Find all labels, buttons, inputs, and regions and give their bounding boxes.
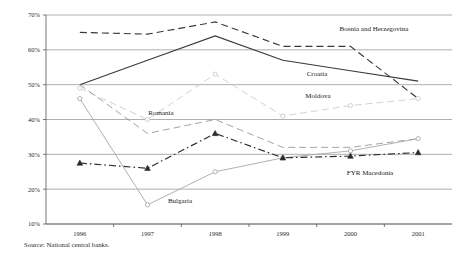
source-note: Source: National central banks.: [24, 241, 109, 248]
data-point-marker: [416, 97, 420, 101]
data-point-marker: [213, 170, 217, 174]
data-point-marker: [416, 137, 420, 141]
data-point-marker: [415, 150, 421, 155]
y-tick-label: 30%: [28, 151, 41, 158]
x-tick-label: 1997: [141, 230, 155, 237]
line-chart-canvas: 10%20%30%40%50%60%70% 199619971998199920…: [0, 0, 467, 262]
data-point-marker: [145, 203, 149, 207]
y-tick-label: 40%: [28, 116, 41, 123]
series-label-bulgaria: Bulgaria: [168, 197, 193, 205]
series-line-croatia: [80, 36, 418, 85]
chart-figure: 10%20%30%40%50%60%70% 199619971998199920…: [0, 0, 467, 262]
series-label-croatia: Croatia: [307, 70, 328, 78]
series-label-moldova: Moldova: [305, 92, 331, 100]
x-tick-label: 1996: [73, 230, 87, 237]
series-label-fyr-macedonia: FYR Macedonia: [347, 169, 394, 177]
y-tick-label: 70%: [28, 11, 41, 18]
data-point-marker: [212, 130, 218, 135]
series-line-moldova: [80, 74, 418, 119]
series-annotations-group: Bosnia and HerzegovinaCroatiaMoldovaRoma…: [148, 25, 409, 205]
data-markers-group: [77, 72, 421, 207]
y-tick-label: 60%: [28, 46, 41, 53]
y-tick-label: 50%: [28, 81, 41, 88]
x-tick-label: 2000: [344, 230, 357, 237]
data-point-marker: [78, 97, 82, 101]
series-label-romania: Romania: [148, 109, 174, 117]
y-axis-labels-group: 10%20%30%40%50%60%70%: [28, 11, 41, 227]
data-point-marker: [213, 72, 217, 76]
x-axis-labels-group: 199619971998199920002001: [73, 230, 424, 237]
series-line-bosnia-and-herzegovina: [80, 22, 418, 99]
series-line-romania: [80, 85, 418, 148]
data-point-marker: [145, 117, 149, 121]
data-point-marker: [281, 114, 285, 118]
data-point-marker: [348, 149, 352, 153]
data-point-marker: [78, 86, 82, 90]
y-tick-label: 10%: [28, 220, 41, 227]
series-line-fyr-macedonia: [80, 133, 418, 168]
x-tick-label: 2001: [412, 230, 425, 237]
series-label-bosnia-and-herzegovina: Bosnia and Herzegovina: [340, 25, 410, 33]
x-tick-label: 1999: [276, 230, 289, 237]
x-tick-label: 1998: [209, 230, 222, 237]
gridlines-group: [46, 15, 452, 224]
y-tick-label: 20%: [28, 186, 41, 193]
data-point-marker: [348, 103, 352, 107]
data-series-group: [80, 22, 418, 205]
